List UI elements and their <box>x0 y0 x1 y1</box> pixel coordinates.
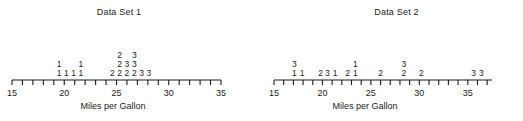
data-point-glyph: 2 <box>376 69 385 78</box>
x-axis-tick-label: 30 <box>157 89 181 98</box>
x-axis-tick-label: 20 <box>310 89 334 98</box>
x-axis-tick-label: 15 <box>0 89 24 98</box>
data-point-glyph: 1 <box>298 69 307 78</box>
data-point-glyph: 3 <box>144 69 153 78</box>
data-point-glyph: 2 <box>417 69 426 78</box>
x-axis-title-data-set-1: Miles per Gallon <box>33 101 193 111</box>
data-point-glyph: 1 <box>76 60 85 69</box>
data-point-glyph: 1 <box>76 69 85 78</box>
x-axis-tick-label: 35 <box>209 89 233 98</box>
data-point-glyph: 1 <box>351 60 360 69</box>
data-point-glyph: 3 <box>130 51 139 60</box>
data-point-glyph: 2 <box>115 51 124 60</box>
data-point-glyph: 1 <box>331 69 340 78</box>
dot-plot-data-set-1: Data Set 1 152025303511111122222323333 M… <box>0 0 262 121</box>
data-point-glyph: 1 <box>55 60 64 69</box>
data-point-glyph: 3 <box>399 60 408 69</box>
x-axis-tick-label: 20 <box>52 89 76 98</box>
x-axis-tick-label: 25 <box>359 89 383 98</box>
data-point-glyph: 3 <box>290 60 299 69</box>
data-point-glyph: 3 <box>130 60 139 69</box>
x-axis-tick-label: 35 <box>456 89 480 98</box>
data-point-glyph: 1 <box>351 69 360 78</box>
x-axis-tick-label: 30 <box>407 89 431 98</box>
dot-plot-data-set-2: Data Set 2 1520253035131231211223233 Mil… <box>262 0 523 121</box>
x-axis-tick-label: 25 <box>105 89 129 98</box>
x-axis-title-data-set-2: Miles per Gallon <box>285 101 445 111</box>
x-axis-tick-label: 15 <box>262 89 286 98</box>
data-point-glyph: 3 <box>477 69 486 78</box>
data-point-glyph: 2 <box>399 69 408 78</box>
